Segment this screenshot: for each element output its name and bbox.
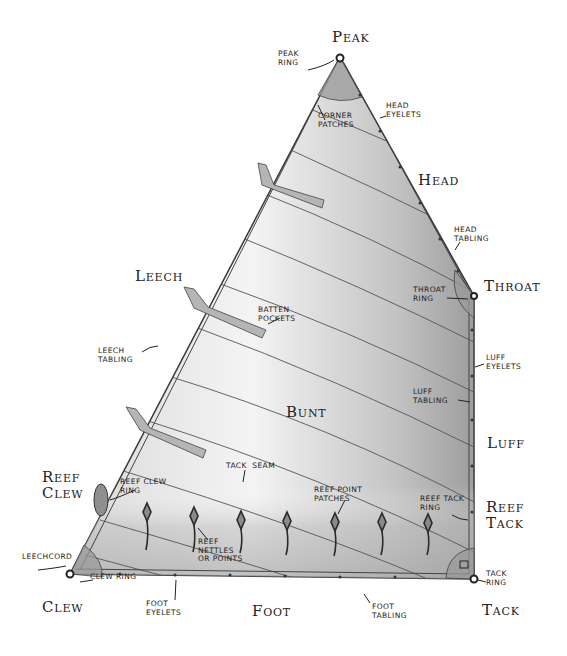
label-tack: Tack xyxy=(482,603,520,618)
callout-reef-tack-ring: Reef tack ring xyxy=(420,495,464,512)
sail-illustration xyxy=(0,0,567,656)
label-bunt: Bunt xyxy=(286,405,326,420)
callout-foot-tabling: Foot tabling xyxy=(372,603,407,620)
reef-clew-patch xyxy=(94,484,108,516)
callout-reef-nettles: Reef nettles or points xyxy=(198,538,243,564)
callout-leech-tabling: Leech tabling xyxy=(98,347,133,364)
callout-peak-ring: Peak ring xyxy=(278,50,299,67)
callout-leechcord: Leechcord xyxy=(22,553,72,562)
callout-throat-ring: Throat ring xyxy=(413,286,446,303)
callout-tack-seam: Tack seam xyxy=(226,462,275,471)
callout-luff-eyelets: Luff eyelets xyxy=(486,354,521,371)
sail-diagram: Peak Head Throat Leech Bunt Luff Reef Cl… xyxy=(0,0,567,656)
callout-batten-pockets: Batten pockets xyxy=(258,306,295,323)
label-reef-clew: Reef Clew xyxy=(42,470,83,502)
label-clew: Clew xyxy=(42,600,83,615)
label-leech: Leech xyxy=(135,269,183,284)
callout-head-eyelets: Head eyelets xyxy=(386,102,421,119)
label-peak: Peak xyxy=(332,30,369,45)
callout-luff-tabling: Luff tabling xyxy=(413,388,448,405)
callout-clew-ring: Clew ring xyxy=(90,573,136,582)
label-luff: Luff xyxy=(487,436,525,451)
callout-corner-patches: Corner patches xyxy=(318,112,354,129)
label-reef-tack: Reef Tack xyxy=(486,500,524,532)
callout-head-tabling: Head tabling xyxy=(454,226,489,243)
callout-reef-clew-ring: Reef clew ring xyxy=(120,478,167,495)
label-head: Head xyxy=(418,173,459,188)
callout-reef-point-patches: Reef point patches xyxy=(314,486,362,503)
callout-foot-eyelets: Foot eyelets xyxy=(146,600,181,617)
label-foot: Foot xyxy=(252,604,291,619)
callout-tack-ring: Tack ring xyxy=(486,570,507,587)
label-throat: Throat xyxy=(484,279,540,294)
